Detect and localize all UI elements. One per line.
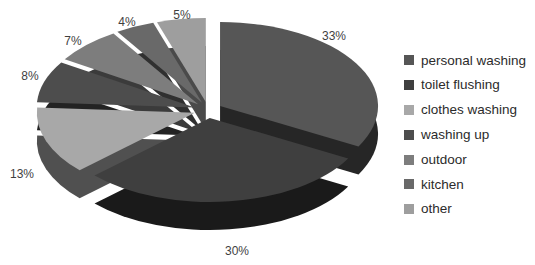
slice-label-outdoor: 7%	[64, 34, 82, 48]
legend-item-personal-washing: personal washing	[404, 48, 526, 73]
slice-label-washing-up: 8%	[21, 69, 39, 83]
legend-item-clothes-washing: clothes washing	[404, 98, 526, 123]
legend-swatch-toilet-flushing	[404, 80, 414, 90]
legend-label: clothes washing	[421, 103, 517, 117]
legend-label: personal washing	[421, 54, 526, 68]
legend-label: other	[421, 202, 452, 216]
legend-label: toilet flushing	[421, 78, 500, 92]
legend-label: kitchen	[421, 178, 464, 192]
chart-legend: personal washingtoilet flushingclothes w…	[404, 48, 526, 222]
slice-label-toilet-flushing: 30%	[225, 244, 249, 258]
legend-label: outdoor	[421, 153, 467, 167]
slice-label-personal-washing: 33%	[322, 29, 346, 43]
legend-item-washing-up: washing up	[404, 122, 526, 147]
legend-item-other: other	[404, 197, 526, 222]
legend-swatch-personal-washing	[404, 55, 414, 65]
slice-label-clothes-washing: 13%	[10, 167, 34, 181]
legend-label: washing up	[421, 128, 489, 142]
legend-swatch-other	[404, 204, 414, 214]
legend-item-kitchen: kitchen	[404, 172, 526, 197]
pie-chart-figure: 33%30%13%8%7%4%5% personal washingtoilet…	[0, 0, 535, 265]
legend-swatch-outdoor	[404, 155, 414, 165]
legend-swatch-clothes-washing	[404, 105, 414, 115]
slice-label-kitchen: 4%	[118, 15, 136, 29]
legend-swatch-kitchen	[404, 179, 414, 189]
legend-item-outdoor: outdoor	[404, 147, 526, 172]
legend-item-toilet-flushing: toilet flushing	[404, 73, 526, 98]
legend-swatch-washing-up	[404, 130, 414, 140]
slice-label-other: 5%	[173, 8, 191, 22]
